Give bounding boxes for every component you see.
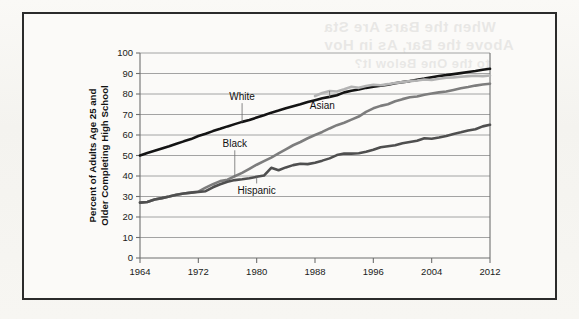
x-axis-tick-label: 1996 [363,266,384,277]
x-axis-tick-label: 2012 [479,266,500,277]
y-axis-tick-label: 10 [122,232,133,243]
y-axis-tick-label: 40 [122,170,133,181]
y-axis-tick-label: 20 [122,211,133,222]
y-axis-tick-label: 70 [122,109,133,120]
y-axis-tick-label: 30 [122,191,133,202]
x-axis-tick-label: 1980 [246,266,267,277]
series-label-asian: Asian [310,100,335,111]
x-axis-tick-label: 1964 [129,266,150,277]
y-axis-title: Percent of Adults Age 25 and [87,88,98,222]
y-axis-tick-label: 0 [128,252,133,263]
y-axis-tick-label: 80 [122,88,133,99]
x-axis-tick-label: 1972 [188,266,209,277]
y-axis-tick-label: 90 [122,68,133,79]
series-line-white [140,69,490,156]
series-line-hispanic [140,125,490,203]
y-axis-tick-label: 50 [122,150,133,161]
y-axis-tick-label: 60 [122,129,133,140]
y-axis-tick-label: 100 [117,47,133,58]
line-chart: 0102030405060708090100196419721980198819… [0,0,579,319]
series-label-hispanic: Hispanic [237,185,275,196]
x-axis-tick-label: 2004 [421,266,442,277]
series-label-black: Black [223,138,248,149]
x-axis-tick-label: 1988 [304,266,325,277]
series-label-white: White [229,91,255,102]
y-axis-title: Older Completing High School [99,85,110,225]
